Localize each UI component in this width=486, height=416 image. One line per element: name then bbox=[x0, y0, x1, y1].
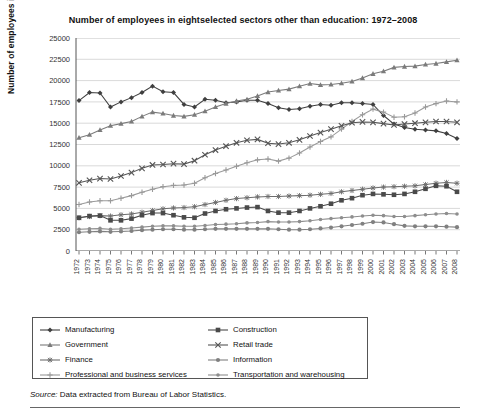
svg-text:7500: 7500 bbox=[53, 183, 70, 192]
legend-item-label: Manufacturing bbox=[65, 325, 114, 334]
series-retail-trade bbox=[76, 119, 459, 186]
svg-text:12500: 12500 bbox=[49, 140, 70, 149]
svg-text:22500: 22500 bbox=[49, 55, 70, 64]
chart-legend: ManufacturingConstructionGovernmentRetai… bbox=[32, 317, 368, 379]
svg-text:2002: 2002 bbox=[388, 259, 395, 275]
svg-text:2000: 2000 bbox=[367, 259, 374, 275]
svg-text:1973: 1973 bbox=[84, 259, 91, 275]
svg-text:1991: 1991 bbox=[273, 259, 280, 275]
svg-text:10000: 10000 bbox=[49, 162, 70, 171]
legend-item-transportation-and-warehousing[interactable]: Transportation and warehousing bbox=[201, 367, 369, 382]
source-text: Data extracted from Bureau of Labor Stat… bbox=[58, 390, 227, 399]
svg-text:2004: 2004 bbox=[409, 259, 416, 275]
svg-text:1988: 1988 bbox=[241, 259, 248, 275]
svg-text:1979: 1979 bbox=[147, 259, 154, 275]
svg-text:1986: 1986 bbox=[220, 259, 227, 275]
series-professional-and-business-services bbox=[76, 98, 459, 207]
svg-text:0: 0 bbox=[66, 247, 70, 256]
svg-text:1994: 1994 bbox=[304, 259, 311, 275]
svg-text:2008: 2008 bbox=[451, 259, 458, 275]
source-caption: Source: Data extracted from Bureau of La… bbox=[30, 390, 226, 399]
chart-title: Number of employees in eightselected sec… bbox=[38, 14, 448, 26]
y-axis-label: Number of employees in thousands bbox=[6, 0, 16, 94]
svg-text:1987: 1987 bbox=[231, 259, 238, 275]
svg-text:2005: 2005 bbox=[420, 259, 427, 275]
svg-text:1980: 1980 bbox=[157, 259, 164, 275]
svg-text:2006: 2006 bbox=[430, 259, 437, 275]
svg-text:2007: 2007 bbox=[441, 259, 448, 275]
bottom-divider bbox=[30, 407, 460, 408]
legend-item-label: Finance bbox=[65, 355, 93, 364]
svg-text:1982: 1982 bbox=[178, 259, 185, 275]
legend-item-professional-and-business-services[interactable]: Professional and business services bbox=[33, 367, 201, 382]
chart-figure: Number of employees in eightselected sec… bbox=[0, 0, 486, 416]
svg-text:2500: 2500 bbox=[53, 225, 70, 234]
svg-text:1993: 1993 bbox=[294, 259, 301, 275]
legend-item-label: Government bbox=[65, 340, 108, 349]
svg-text:1989: 1989 bbox=[252, 259, 259, 275]
svg-text:20000: 20000 bbox=[49, 76, 70, 85]
svg-text:1995: 1995 bbox=[315, 259, 322, 275]
diamond-marker-icon bbox=[39, 325, 61, 335]
asterisk-marker-icon bbox=[39, 355, 61, 365]
svg-text:15000: 15000 bbox=[49, 119, 70, 128]
legend-item-retail-trade[interactable]: Retail trade bbox=[201, 337, 369, 352]
source-prefix: Source: bbox=[30, 390, 58, 399]
legend-item-label: Retail trade bbox=[233, 340, 273, 349]
svg-text:1975: 1975 bbox=[105, 259, 112, 275]
svg-text:5000: 5000 bbox=[53, 204, 70, 213]
plot-region bbox=[76, 38, 460, 251]
series-finance bbox=[76, 180, 459, 221]
svg-text:1997: 1997 bbox=[336, 259, 343, 275]
svg-text:17500: 17500 bbox=[49, 98, 70, 107]
svg-text:1977: 1977 bbox=[126, 259, 133, 275]
svg-text:1984: 1984 bbox=[199, 259, 206, 275]
svg-text:1992: 1992 bbox=[283, 259, 290, 275]
svg-text:1998: 1998 bbox=[346, 259, 353, 275]
svg-text:1985: 1985 bbox=[210, 259, 217, 275]
svg-text:1996: 1996 bbox=[325, 259, 332, 275]
triangle-marker-icon bbox=[39, 340, 61, 350]
svg-text:1990: 1990 bbox=[262, 259, 269, 275]
legend-item-label: Transportation and warehousing bbox=[233, 370, 345, 379]
svg-text:25000: 25000 bbox=[49, 34, 70, 43]
legend-item-label: Construction bbox=[233, 325, 277, 334]
svg-text:1974: 1974 bbox=[94, 259, 101, 275]
svg-text:1981: 1981 bbox=[168, 259, 175, 275]
legend-item-finance[interactable]: Finance bbox=[33, 352, 201, 367]
line-chart-svg bbox=[76, 38, 460, 251]
legend-item-information[interactable]: Information bbox=[201, 352, 369, 367]
svg-text:1999: 1999 bbox=[357, 259, 364, 275]
svg-text:2001: 2001 bbox=[378, 259, 385, 275]
x-marker-icon bbox=[207, 340, 229, 350]
chart-area: Number of employees in thousands 0250050… bbox=[0, 34, 486, 296]
svg-text:1983: 1983 bbox=[189, 259, 196, 275]
legend-item-label: Information bbox=[233, 355, 272, 364]
legend-item-label: Professional and business services bbox=[65, 370, 187, 379]
svg-text:2003: 2003 bbox=[399, 259, 406, 275]
legend-item-manufacturing[interactable]: Manufacturing bbox=[33, 322, 201, 337]
square-marker-icon bbox=[207, 325, 229, 335]
plus-marker-icon bbox=[39, 370, 61, 380]
svg-text:1972: 1972 bbox=[73, 259, 80, 275]
legend-item-government[interactable]: Government bbox=[33, 337, 201, 352]
svg-text:1978: 1978 bbox=[136, 259, 143, 275]
circle-marker-icon bbox=[207, 355, 229, 365]
svg-text:1976: 1976 bbox=[115, 259, 122, 275]
dash-marker-icon bbox=[207, 370, 229, 380]
legend-item-construction[interactable]: Construction bbox=[201, 322, 369, 337]
